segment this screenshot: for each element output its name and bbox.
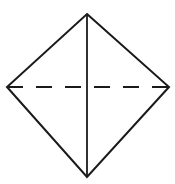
figure-container: [0, 0, 175, 184]
rhombus-diagram: [0, 0, 175, 184]
